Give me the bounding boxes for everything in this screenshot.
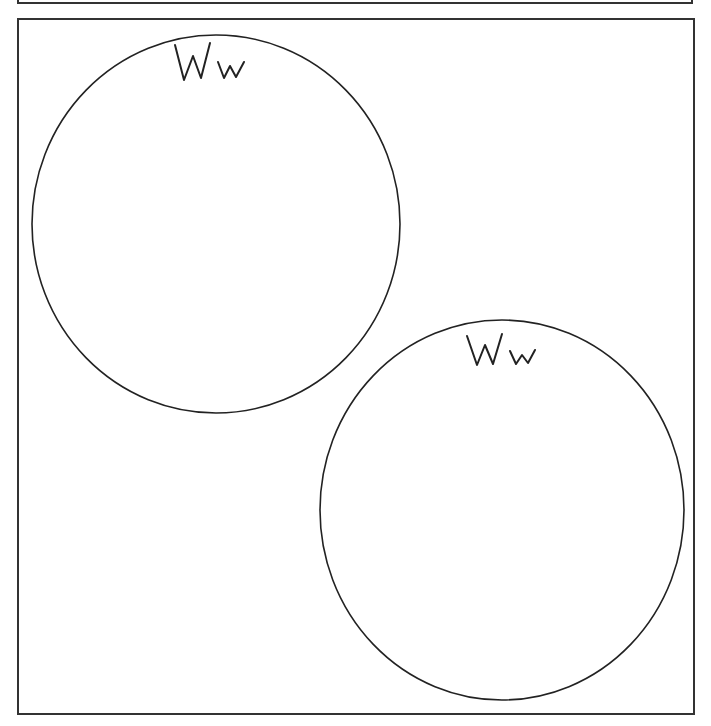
letter-circle-1: Ww: [32, 35, 400, 413]
letter-circle-2: Ww: [320, 320, 684, 700]
handwritten-letters-ww: [467, 334, 535, 365]
circles-canvas: Ww Ww: [0, 0, 711, 726]
handwritten-letters-ww: [175, 43, 244, 80]
